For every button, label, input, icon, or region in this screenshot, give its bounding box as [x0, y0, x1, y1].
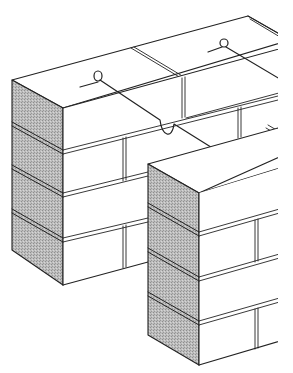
- front-pier-front-face: [199, 165, 290, 365]
- front-pier-side-face: [148, 164, 199, 365]
- brick-wall-figure: [0, 0, 293, 373]
